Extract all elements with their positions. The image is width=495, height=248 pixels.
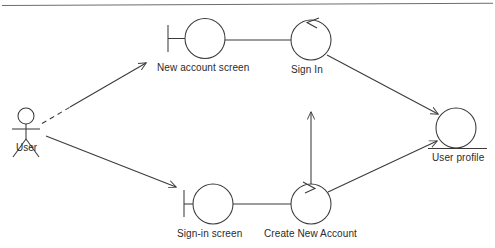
node-sign-in[interactable] — [291, 18, 331, 60]
node-label-create-new-account: Create New Account — [264, 228, 357, 239]
node-new-account-screen[interactable] — [168, 19, 225, 59]
node-label-sign-in: Sign In — [291, 64, 323, 75]
node-create-new-account[interactable] — [291, 182, 331, 224]
edge-user-to-sign-in-screen — [46, 136, 176, 187]
node-circle[interactable] — [436, 108, 476, 148]
node-label-user-profile: User profile — [432, 152, 484, 163]
node-label-new-account-screen: New account screen — [157, 62, 249, 73]
edge-segment-dashed — [42, 106, 72, 124]
actor-head-icon — [18, 108, 34, 124]
node-circle[interactable] — [193, 184, 233, 224]
node-label-sign-in-screen: Sign-in screen — [177, 228, 242, 239]
node-sign-in-screen[interactable] — [184, 184, 233, 224]
top-horizontal-rule — [2, 3, 493, 5]
node-user-profile[interactable] — [428, 108, 487, 149]
sign-in-incoming-arrowhead-icon — [307, 18, 319, 28]
diagram-canvas: User New account screen Sign In Sign-in … — [0, 0, 495, 248]
actor-label-user: User — [16, 142, 37, 153]
edge-segment-solid — [70, 63, 146, 107]
node-circle[interactable] — [185, 19, 225, 59]
diagram-svg — [0, 0, 495, 248]
edge-sign-in-to-user-profile — [327, 55, 438, 114]
node-circle[interactable] — [291, 20, 331, 60]
edge-user-to-new-account-screen — [42, 63, 146, 124]
edge-create-new-account-to-user-profile — [328, 141, 437, 192]
